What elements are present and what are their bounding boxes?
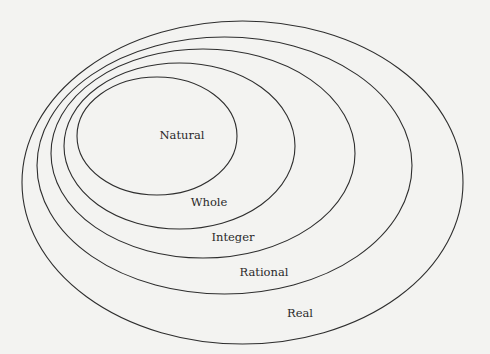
integer-set-ellipse xyxy=(51,49,355,258)
real-set-ellipse xyxy=(22,21,463,344)
natural-set-ellipse xyxy=(77,77,237,195)
number-sets-diagram: Real Rational Integer Whole Natural xyxy=(0,0,490,354)
rational-set-label: Rational xyxy=(240,265,289,279)
whole-set: Whole xyxy=(64,63,295,229)
whole-set-label: Whole xyxy=(191,195,228,209)
natural-set: Natural xyxy=(77,77,237,195)
real-set-label: Real xyxy=(287,306,313,320)
real-set: Real xyxy=(22,21,463,344)
integer-set: Integer xyxy=(51,49,355,258)
whole-set-ellipse xyxy=(64,63,295,229)
rational-set-ellipse xyxy=(37,37,412,294)
integer-set-label: Integer xyxy=(211,230,255,244)
natural-set-label: Natural xyxy=(160,128,205,142)
rational-set: Rational xyxy=(37,37,412,294)
